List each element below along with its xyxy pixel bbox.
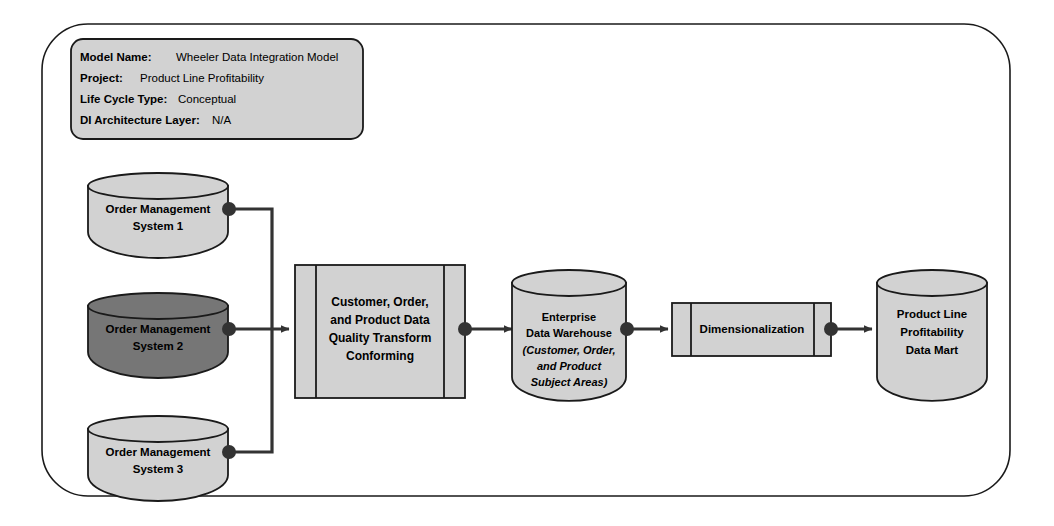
connector-dot-dimensionalization [824, 322, 838, 336]
node-label-line-4: Conforming [346, 349, 414, 363]
node-label-line-3: Quality Transform [329, 331, 432, 345]
data-integration-diagram: Model Name: Wheeler Data Integration Mod… [0, 0, 1054, 526]
node-label-line-2: System 2 [133, 340, 184, 352]
node-label-line-5: Subject Areas) [531, 376, 608, 388]
header-label-di-architecture-layer: DI Architecture Layer: [80, 114, 200, 126]
node-product-line-profitability-data-mart[interactable]: Product Line Profitability Data Mart [877, 270, 987, 401]
node-label-line-3: Data Mart [906, 344, 959, 356]
header-value-di-architecture-layer: N/A [212, 114, 232, 126]
header-label-project: Project: [80, 72, 123, 84]
node-label-line-2: System 1 [133, 220, 184, 232]
node-label-line-1: Product Line [897, 308, 967, 320]
node-dimensionalization-process[interactable]: Dimensionalization [672, 303, 831, 356]
cylinder-top [877, 270, 987, 296]
node-label-line-4: and Product [537, 360, 603, 372]
connector-dot-oms1 [222, 202, 236, 216]
node-order-management-system-2[interactable]: Order Management System 2 [88, 293, 228, 378]
node-label-line-1: Order Management [106, 446, 211, 458]
node-label-line-2: Profitability [900, 326, 964, 338]
node-label-line-3: (Customer, Order, [523, 344, 616, 356]
node-label-line-1: Dimensionalization [700, 323, 805, 335]
connector-dot-oms3 [222, 445, 236, 459]
cylinder-top [512, 270, 626, 296]
cylinder-top [88, 173, 228, 199]
node-label-line-1: Order Management [106, 323, 211, 335]
node-label-line-1: Customer, Order, [331, 295, 428, 309]
node-transform-process[interactable]: Customer, Order, and Product Data Qualit… [295, 265, 465, 398]
header-label-life-cycle-type: Life Cycle Type: [80, 93, 167, 105]
model-header-box: Model Name: Wheeler Data Integration Mod… [71, 39, 363, 139]
node-label-line-1: Order Management [106, 203, 211, 215]
node-order-management-system-3[interactable]: Order Management System 3 [88, 416, 228, 501]
header-label-model-name: Model Name: [80, 51, 152, 63]
cylinder-body [877, 283, 987, 401]
connector-dot-oms2 [222, 322, 236, 336]
node-label-line-1: Enterprise [542, 311, 596, 323]
header-value-model-name: Wheeler Data Integration Model [176, 51, 338, 63]
header-value-life-cycle-type: Conceptual [178, 93, 236, 105]
header-value-project: Product Line Profitability [140, 72, 264, 84]
node-label-line-2: System 3 [133, 463, 184, 475]
node-order-management-system-1[interactable]: Order Management System 1 [88, 173, 228, 258]
connector-dot-transform [458, 322, 472, 336]
diagram-canvas: Model Name: Wheeler Data Integration Mod… [0, 0, 1054, 526]
connector-dot-edw [620, 322, 634, 336]
node-enterprise-data-warehouse[interactable]: Enterprise Data Warehouse (Customer, Ord… [512, 270, 626, 401]
cylinder-top [88, 416, 228, 442]
node-label-line-2: and Product Data [330, 313, 430, 327]
node-label-line-2: Data Warehouse [526, 327, 612, 339]
cylinder-top [88, 293, 228, 319]
